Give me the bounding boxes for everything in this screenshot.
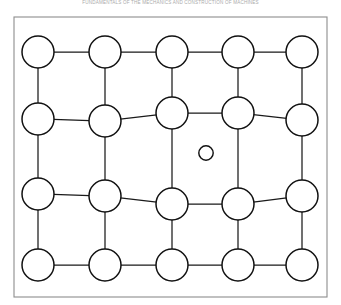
- lattice-atom-r3c1: [89, 249, 121, 281]
- lattice-atom-r3c4: [286, 249, 318, 281]
- lattice-diagram: [0, 0, 341, 305]
- lattice-atom-r2c4: [286, 180, 318, 212]
- lattice-atom-r3c0: [22, 249, 54, 281]
- lattice-atom-r1c3: [222, 97, 254, 129]
- lattice-atom-r0c0: [22, 36, 54, 68]
- page-canvas: FUNDAMENTALS OF THE MECHANICS AND CONSTR…: [0, 0, 341, 305]
- lattice-atom-r0c2: [156, 36, 188, 68]
- lattice-atom-r2c1: [89, 180, 121, 212]
- lattice-atom-r3c2: [156, 249, 188, 281]
- lattice-atom-r2c0: [22, 178, 54, 210]
- lattice-atom-r3c3: [222, 249, 254, 281]
- lattice-atom-r1c0: [22, 103, 54, 135]
- lattice-atom-r0c3: [222, 36, 254, 68]
- lattice-atom-r1c4: [286, 104, 318, 136]
- lattice-atom-r2c3: [222, 188, 254, 220]
- interstitial-atom-circle: [199, 146, 213, 160]
- lattice-atom-r0c4: [286, 36, 318, 68]
- lattice-atom-r1c2: [156, 97, 188, 129]
- figure-container: [0, 0, 341, 305]
- lattice-atom-r1c1: [89, 105, 121, 137]
- lattice-atom-r2c2: [156, 188, 188, 220]
- lattice-atom-r0c1: [89, 36, 121, 68]
